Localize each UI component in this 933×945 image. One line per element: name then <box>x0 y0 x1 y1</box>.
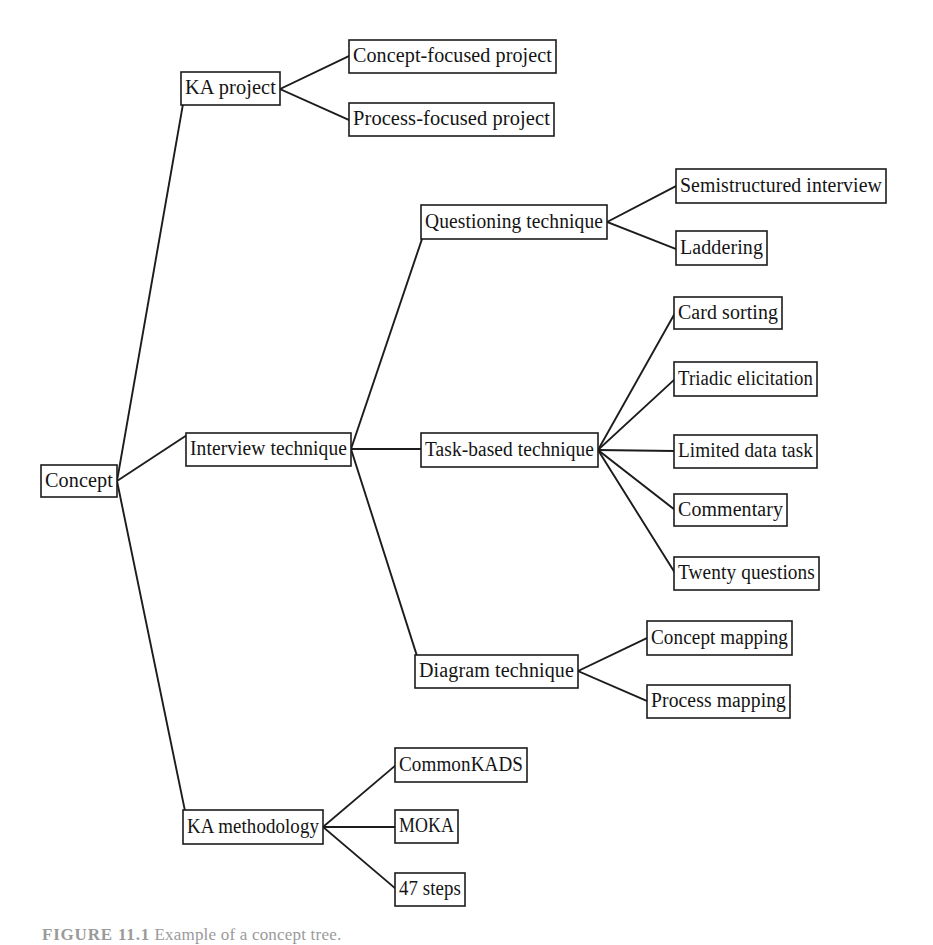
tree-node-commonkads[interactable]: CommonKADS <box>395 748 527 782</box>
tree-node-diagram-technique[interactable]: Diagram technique <box>415 655 578 688</box>
tree-edge-task-based-to-commentary <box>598 450 675 510</box>
node-label-process-mapping: Process mapping <box>651 689 786 712</box>
node-label-interview-technique: Interview technique <box>190 437 347 460</box>
tree-node-twenty-questions[interactable]: Twenty questions <box>674 557 819 590</box>
tree-node-card-sorting[interactable]: Card sorting <box>674 297 782 329</box>
node-label-triadic: Triadic elicitation <box>678 367 813 389</box>
nodes-layer: ConceptKA projectConcept-focused project… <box>41 40 886 906</box>
tree-edge-task-based-to-limited-data <box>598 450 674 451</box>
tree-node-limited-data[interactable]: Limited data task <box>674 435 817 468</box>
tree-node-concept[interactable]: Concept <box>41 465 117 497</box>
tree-node-moka[interactable]: MOKA <box>395 810 458 843</box>
tree-node-ka-methodology[interactable]: KA methodology <box>183 810 323 844</box>
tree-edge-ka-project-to-process-focused <box>280 89 349 120</box>
tree-node-task-based[interactable]: Task-based technique <box>421 433 598 467</box>
tree-edge-diagram-technique-to-process-mapping <box>578 671 647 701</box>
node-label-questioning: Questioning technique <box>425 210 603 233</box>
tree-edge-ka-project-to-concept-focused <box>280 56 349 89</box>
tree-node-ka-project[interactable]: KA project <box>181 72 280 105</box>
tree-node-process-mapping[interactable]: Process mapping <box>647 685 790 718</box>
tree-edge-interview-technique-to-questioning <box>351 239 422 449</box>
tree-edge-interview-technique-to-diagram-technique <box>351 449 417 656</box>
tree-edge-task-based-to-triadic <box>598 379 675 450</box>
tree-node-questioning[interactable]: Questioning technique <box>421 205 607 239</box>
node-label-diagram-technique: Diagram technique <box>419 659 574 682</box>
tree-node-semistructured[interactable]: Semistructured interview <box>676 169 886 203</box>
tree-edge-ka-methodology-to-steps47 <box>323 827 396 889</box>
figure-caption: FIGURE 11.1 Example of a concept tree. <box>42 925 341 945</box>
node-label-commentary: Commentary <box>678 498 784 521</box>
tree-edge-ka-methodology-to-commonkads <box>323 765 396 827</box>
node-label-twenty-questions: Twenty questions <box>678 561 815 584</box>
node-label-commonkads: CommonKADS <box>399 753 523 775</box>
node-label-moka: MOKA <box>399 814 454 836</box>
tree-edge-task-based-to-card-sorting <box>598 313 675 450</box>
node-label-laddering: Laddering <box>680 236 763 259</box>
tree-edge-concept-to-interview-technique <box>117 435 187 481</box>
tree-node-triadic[interactable]: Triadic elicitation <box>674 362 817 396</box>
node-label-card-sorting: Card sorting <box>678 301 778 324</box>
node-label-ka-project: KA project <box>185 76 276 99</box>
figure-caption-text: Example of a concept tree. <box>154 925 341 944</box>
tree-node-steps47[interactable]: 47 steps <box>395 873 465 906</box>
tree-node-concept-focused[interactable]: Concept-focused project <box>349 40 556 73</box>
tree-edge-questioning-to-semistructured <box>607 186 676 222</box>
node-label-semistructured: Semistructured interview <box>680 174 882 196</box>
tree-edge-concept-to-ka-methodology <box>117 481 185 811</box>
figure-caption-label: FIGURE 11.1 <box>42 925 150 944</box>
tree-node-interview-technique[interactable]: Interview technique <box>186 433 351 466</box>
node-label-ka-methodology: KA methodology <box>187 815 320 838</box>
tree-edge-diagram-technique-to-concept-mapping <box>578 638 647 671</box>
node-label-steps47: 47 steps <box>399 877 461 900</box>
tree-node-laddering[interactable]: Laddering <box>676 231 767 265</box>
node-label-concept: Concept <box>45 469 113 492</box>
tree-edge-concept-to-ka-project <box>117 104 183 481</box>
node-label-concept-focused: Concept-focused project <box>353 44 552 67</box>
tree-node-concept-mapping[interactable]: Concept mapping <box>647 621 792 655</box>
node-label-task-based: Task-based technique <box>425 438 594 461</box>
tree-edge-questioning-to-laddering <box>607 222 676 249</box>
node-label-process-focused: Process-focused project <box>353 107 550 130</box>
tree-edge-task-based-to-twenty-questions <box>598 450 675 573</box>
node-label-limited-data: Limited data task <box>678 439 814 461</box>
tree-node-commentary[interactable]: Commentary <box>674 494 787 526</box>
node-label-concept-mapping: Concept mapping <box>651 626 788 649</box>
tree-node-process-focused[interactable]: Process-focused project <box>349 103 554 136</box>
